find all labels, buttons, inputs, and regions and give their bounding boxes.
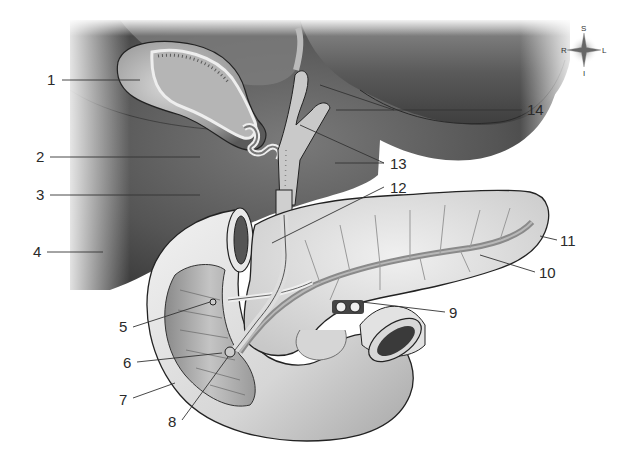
compass-superior: S	[581, 24, 586, 33]
label-11: 11	[560, 233, 576, 248]
anatomy-illustration	[0, 0, 637, 466]
mesenteric-vessels	[332, 300, 364, 314]
label-1: 1	[47, 72, 55, 87]
label-4: 4	[33, 244, 41, 259]
compass-left: L	[602, 46, 606, 55]
label-10: 10	[539, 265, 556, 280]
label-9: 9	[449, 305, 457, 320]
compass-inferior: I	[583, 69, 585, 78]
label-13: 13	[390, 156, 407, 171]
label-8: 8	[168, 414, 176, 429]
compass-right: R	[561, 46, 567, 55]
label-5: 5	[119, 319, 127, 334]
label-14: 14	[527, 102, 544, 117]
label-3: 3	[36, 187, 44, 202]
label-6: 6	[123, 355, 131, 370]
label-2: 2	[36, 149, 44, 164]
label-7: 7	[119, 392, 127, 407]
label-12: 12	[390, 180, 407, 195]
